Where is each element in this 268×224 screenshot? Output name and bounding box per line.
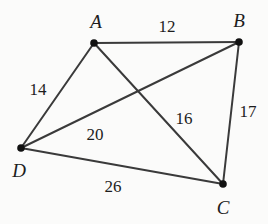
graph-canvas bbox=[0, 0, 268, 224]
edge-d-b bbox=[21, 42, 239, 148]
vertex-dot-a bbox=[90, 39, 98, 47]
edge-a-d bbox=[21, 43, 94, 148]
vertex-dot-b bbox=[235, 38, 243, 46]
edge-layer bbox=[21, 42, 239, 184]
vertex-dot-d bbox=[17, 144, 25, 152]
edge-a-c bbox=[94, 43, 223, 184]
edge-a-b bbox=[94, 42, 239, 43]
vertex-dot-c bbox=[219, 180, 227, 188]
graph-diagram: ABCD121416201726 bbox=[0, 0, 268, 224]
edge-b-c bbox=[223, 42, 239, 184]
edge-d-c bbox=[21, 148, 223, 184]
vertex-layer bbox=[17, 38, 243, 188]
